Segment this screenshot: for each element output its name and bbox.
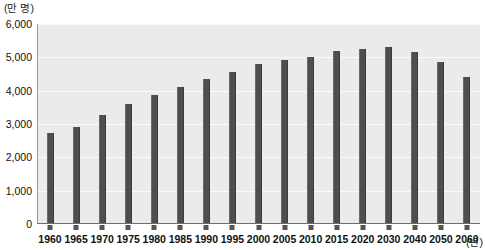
x-axis-tick-mark — [282, 225, 287, 230]
bar — [151, 95, 158, 223]
y-axis-tick-label: 3,000 — [0, 119, 32, 130]
x-axis-tick-mark — [126, 225, 131, 230]
bar — [177, 87, 184, 223]
x-axis-tick-mark — [178, 225, 183, 230]
x-axis-tick-label: 2050 — [429, 233, 452, 245]
y-axis-tick-label: 2,000 — [0, 152, 32, 163]
x-axis-tick-label: 2010 — [299, 233, 322, 245]
y-axis-tick-label: 0 — [0, 219, 32, 230]
x-axis-tick-mark — [412, 225, 417, 230]
x-axis-tick-layer: 1960196519701975198019851990199520002005… — [37, 224, 480, 250]
y-axis-unit-caption: (만 명) — [4, 2, 34, 14]
bar — [307, 57, 314, 223]
bar — [281, 60, 288, 223]
x-axis-tick-mark — [464, 225, 469, 230]
bar — [203, 79, 210, 223]
y-axis-tick-label: 4,000 — [0, 86, 32, 97]
x-axis-tick-mark — [204, 225, 209, 230]
bar — [99, 115, 106, 223]
x-axis-tick-label: 2030 — [377, 233, 400, 245]
y-axis-tick-label: 6,000 — [0, 19, 32, 30]
x-axis-tick-label: 2015 — [325, 233, 348, 245]
bar — [229, 72, 236, 223]
x-axis-tick-label: 1960 — [38, 233, 61, 245]
bar — [255, 64, 262, 223]
x-axis-tick-mark — [360, 225, 365, 230]
x-axis-tick-label: 2020 — [351, 233, 374, 245]
x-axis-tick-mark — [386, 225, 391, 230]
x-axis-tick-label: 1970 — [90, 233, 113, 245]
x-axis-unit-caption: (년) — [466, 236, 483, 248]
x-axis-tick-mark — [308, 225, 313, 230]
x-axis-tick-mark — [230, 225, 235, 230]
bar — [359, 49, 366, 223]
bar — [463, 77, 470, 223]
x-axis-tick-mark — [48, 225, 53, 230]
x-axis-tick-label: 1985 — [169, 233, 192, 245]
x-axis-tick-mark — [334, 225, 339, 230]
bar — [333, 51, 340, 223]
bar — [73, 127, 80, 223]
x-axis-tick-label: 1990 — [195, 233, 218, 245]
bar — [411, 52, 418, 223]
bars-layer — [37, 24, 480, 223]
x-axis-tick-label: 1975 — [117, 233, 140, 245]
bar — [125, 104, 132, 223]
bar — [437, 62, 444, 223]
x-axis-tick-label: 1965 — [64, 233, 87, 245]
x-axis-tick-label: 1995 — [221, 233, 244, 245]
x-axis-tick-label: 2040 — [403, 233, 426, 245]
bar — [47, 133, 54, 223]
x-axis-tick-mark — [74, 225, 79, 230]
x-axis-tick-mark — [256, 225, 261, 230]
bar — [385, 47, 392, 223]
y-axis-tick-label: 1,000 — [0, 186, 32, 197]
x-axis-tick-label: 2005 — [273, 233, 296, 245]
x-axis-tick-label: 1980 — [143, 233, 166, 245]
x-axis-tick-mark — [438, 225, 443, 230]
x-axis-tick-label: 2000 — [247, 233, 270, 245]
x-axis-tick-mark — [152, 225, 157, 230]
y-axis-tick-label: 5,000 — [0, 52, 32, 63]
population-bar-chart: (만 명) 01,0002,0003,0004,0005,0006,000 19… — [0, 0, 485, 250]
x-axis-tick-mark — [100, 225, 105, 230]
